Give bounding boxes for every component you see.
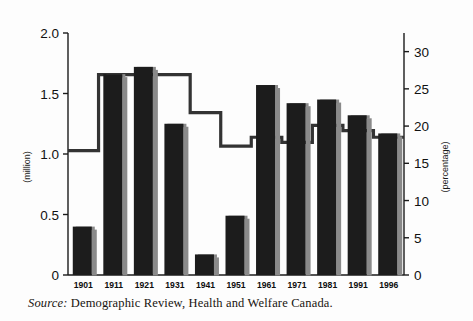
y-tick-label-left-4: 2.0 — [40, 26, 59, 41]
source-text: Demographic Review, Health and Welfare C… — [71, 296, 333, 310]
chart-canvas: 00.51.01.52.0051015202530(million)(perce… — [0, 0, 473, 321]
y-tick-label-right-0: 0 — [414, 268, 422, 283]
bar-shadow-1981 — [336, 103, 341, 276]
x-tick-label-1981: 1981 — [318, 280, 337, 290]
bar-1901 — [73, 227, 92, 275]
y-tick-label-left-0: 0 — [51, 268, 59, 283]
bar-1921 — [134, 67, 153, 275]
bar-1941 — [195, 254, 214, 275]
x-tick-label-1996: 1996 — [379, 280, 398, 290]
source-label: Source: — [28, 296, 67, 310]
x-tick-label-1941: 1941 — [196, 280, 215, 290]
y-tick-label-left-2: 1.0 — [40, 147, 59, 162]
x-tick-label-1931: 1931 — [165, 280, 184, 290]
y-axis-left-unit-label: (million) — [22, 151, 32, 183]
bar-shadow-1911 — [122, 77, 127, 275]
x-tick-label-1991: 1991 — [349, 280, 368, 290]
bar-1971 — [287, 103, 306, 275]
bar-shadow-1951 — [245, 219, 250, 276]
bar-shadow-1971 — [306, 106, 311, 275]
bar-1951 — [226, 216, 245, 275]
y-tick-label-right-1: 5 — [414, 231, 422, 246]
source-caption: Source: Demographic Review, Health and W… — [28, 296, 333, 311]
y-tick-label-right-6: 30 — [414, 45, 429, 60]
x-tick-label-1911: 1911 — [104, 280, 123, 290]
y-tick-label-left-1: 0.5 — [40, 208, 59, 223]
y-tick-label-right-3: 15 — [414, 156, 429, 171]
y-tick-label-right-2: 10 — [414, 194, 429, 209]
bar-shadow-1931 — [183, 127, 188, 276]
y-tick-label-left-3: 1.5 — [40, 87, 59, 102]
bar-1931 — [164, 124, 183, 275]
chart-figure: 00.51.01.52.0051015202530(million)(perce… — [0, 0, 473, 321]
bar-shadow-1901 — [92, 230, 97, 276]
y-axis-right-unit-label: (percentage) — [440, 141, 450, 192]
bar-shadow-1961 — [275, 88, 280, 275]
y-tick-label-right-5: 25 — [414, 82, 429, 97]
bar-shadow-1996 — [397, 136, 402, 275]
bar-1981 — [317, 100, 336, 275]
bar-shadow-1991 — [367, 118, 372, 275]
x-tick-label-1971: 1971 — [288, 280, 307, 290]
bar-shadow-1941 — [214, 257, 219, 275]
x-tick-label-1961: 1961 — [257, 280, 276, 290]
bar-shadow-1921 — [153, 70, 158, 276]
x-tick-label-1901: 1901 — [74, 280, 93, 290]
y-tick-label-right-4: 20 — [414, 119, 429, 134]
x-tick-label-1951: 1951 — [226, 280, 245, 290]
bar-1996 — [378, 133, 397, 275]
x-tick-label-1921: 1921 — [135, 280, 154, 290]
bar-1911 — [103, 74, 122, 275]
bar-1961 — [256, 85, 275, 275]
bar-1991 — [348, 115, 367, 275]
